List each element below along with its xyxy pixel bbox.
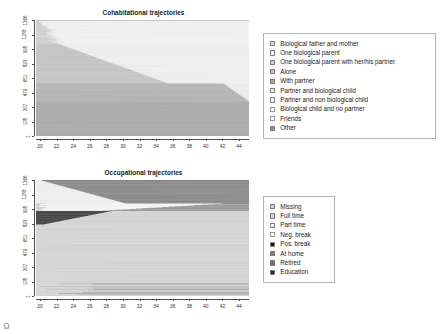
x-axis-tick	[106, 299, 107, 301]
x-axis-tick	[40, 299, 41, 301]
legend-occupational: MissingFull timePart timeNeg. breakPos. …	[263, 196, 335, 283]
x-axis-tick	[140, 299, 141, 301]
page-title-cohabitational: Cohabitational trajectories	[36, 9, 251, 16]
y-axis-tick-label: 651	[0, 235, 30, 241]
legend-item[interactable]: Partner and biological child	[270, 86, 429, 95]
x-axis-tick-label: 34	[153, 143, 159, 149]
legend-item[interactable]: Biological father and mother	[270, 39, 429, 48]
x-axis-minor-tick	[214, 139, 215, 140]
x-axis-tick-label: 24	[70, 303, 76, 309]
y-axis-tick	[32, 253, 34, 254]
x-axis-minor-tick	[98, 139, 99, 140]
x-axis-minor-tick	[231, 299, 232, 300]
y-axis-tick-label: 479	[0, 90, 30, 96]
legend-item[interactable]: Full time	[270, 211, 328, 220]
y-axis-tick	[32, 20, 34, 21]
y-axis-tick	[32, 64, 34, 65]
y-axis-tick	[32, 107, 34, 108]
y-axis-tick-label: 651	[0, 75, 30, 81]
x-axis-tick	[57, 139, 58, 141]
x-axis-tick-label: 20	[37, 143, 43, 149]
legend-cohabitational: Biological father and motherOne biologic…	[263, 33, 436, 139]
x-axis-tick	[123, 299, 124, 301]
legend-item[interactable]: Biological child and no partner	[270, 105, 429, 114]
legend-swatch-icon	[270, 126, 275, 131]
x-axis-tick	[40, 139, 41, 141]
plot-wrap-cohabitational	[36, 20, 249, 136]
y-axis-tick-label: 995	[0, 206, 30, 212]
y-axis-tick-label: 307	[0, 104, 30, 110]
legend-item[interactable]: Partner and non biological child	[270, 95, 429, 104]
y-axis-tick-label: 1188	[0, 32, 30, 38]
legend-item-label: Alone	[280, 69, 296, 75]
y-axis-tick-label: 1	[0, 133, 30, 139]
x-axis-tick-label: 28	[104, 303, 110, 309]
legend-item-label: Partner and biological child	[280, 88, 356, 94]
x-axis-minor-tick	[148, 139, 149, 140]
legend-item[interactable]: At home	[270, 249, 328, 258]
x-axis-tick-label: 42	[220, 303, 226, 309]
x-axis-tick-label: 40	[203, 143, 209, 149]
legend-swatch-icon	[270, 107, 275, 112]
x-axis-tick-label: 38	[186, 143, 192, 149]
x-axis-tick-label: 44	[236, 143, 242, 149]
y-axis-tick	[32, 296, 34, 297]
y-axis-tick	[32, 238, 34, 239]
legend-item[interactable]: Other	[270, 124, 429, 133]
legend-swatch-icon	[270, 270, 275, 275]
legend-item[interactable]: Education	[270, 268, 328, 277]
legend-item[interactable]: Retired	[270, 258, 328, 267]
legend-item[interactable]: One biological parent with her/his partn…	[270, 58, 429, 67]
y-axis-tick-text: 135	[24, 278, 29, 286]
x-axis-tick	[57, 299, 58, 301]
x-axis-tick	[189, 299, 190, 301]
x-axis-minor-tick	[148, 299, 149, 300]
y-axis-tick-text: 1188	[23, 30, 28, 40]
legend-item[interactable]: With partner	[270, 77, 429, 86]
x-axis-tick	[140, 139, 141, 141]
x-axis-minor-tick	[198, 139, 199, 140]
plot-area-occupational	[36, 180, 249, 296]
y-axis-tick	[32, 180, 34, 181]
legend-swatch-icon	[270, 260, 275, 265]
legend-item[interactable]: Alone	[270, 67, 429, 76]
y-axis-tick-label: 823	[0, 61, 30, 67]
legend-item-label: Biological father and mother	[280, 41, 358, 47]
y-axis-line	[34, 20, 35, 136]
legend-item[interactable]: Neg. break	[270, 230, 328, 239]
x-axis-minor-tick	[131, 299, 132, 300]
legend-item[interactable]: Part time	[270, 221, 328, 230]
y-axis-tick-text: 995	[24, 205, 29, 213]
legend-item[interactable]: Friends	[270, 114, 429, 123]
x-axis-tick-label: 32	[137, 303, 143, 309]
legend-item-label: Pos. break	[280, 241, 310, 247]
legend-item[interactable]: One biological parent	[270, 48, 429, 57]
x-axis-tick-label: 22	[54, 303, 60, 309]
y-axis-tick-text: 307	[24, 103, 29, 111]
legend-item-label: One biological parent with her/his partn…	[280, 59, 395, 65]
x-axis-tick-label: 38	[186, 303, 192, 309]
y-axis-tick-text: 995	[24, 45, 29, 53]
y-axis-tick-text: 479	[24, 89, 29, 97]
partial-thumbnail-icon	[3, 315, 19, 329]
y-axis-tick-text: 823	[24, 220, 29, 228]
x-axis-tick	[173, 139, 174, 141]
y-axis-tick	[32, 195, 34, 196]
legend-item[interactable]: Missing	[270, 202, 328, 211]
y-axis-tick	[32, 224, 34, 225]
legend-item[interactable]: Pos. break	[270, 240, 328, 249]
panel-occupational: Occupational trajectories 1503 seq. (n=1…	[0, 160, 440, 327]
x-axis-tick-label: 24	[70, 143, 76, 149]
x-axis-tick	[73, 299, 74, 301]
legend-swatch-icon	[270, 50, 275, 55]
y-axis-tick-text: 1	[26, 295, 31, 298]
y-axis-tick-label: 135	[0, 279, 30, 285]
x-axis-tick-label: 42	[220, 143, 226, 149]
x-axis-minor-tick	[164, 139, 165, 140]
legend-swatch-icon	[270, 204, 275, 209]
legend-item-label: Neg. break	[280, 232, 311, 238]
y-axis-tick	[32, 267, 34, 268]
x-axis-tick	[189, 139, 190, 141]
legend-swatch-icon	[270, 213, 275, 218]
legend-swatch-icon	[270, 69, 275, 74]
